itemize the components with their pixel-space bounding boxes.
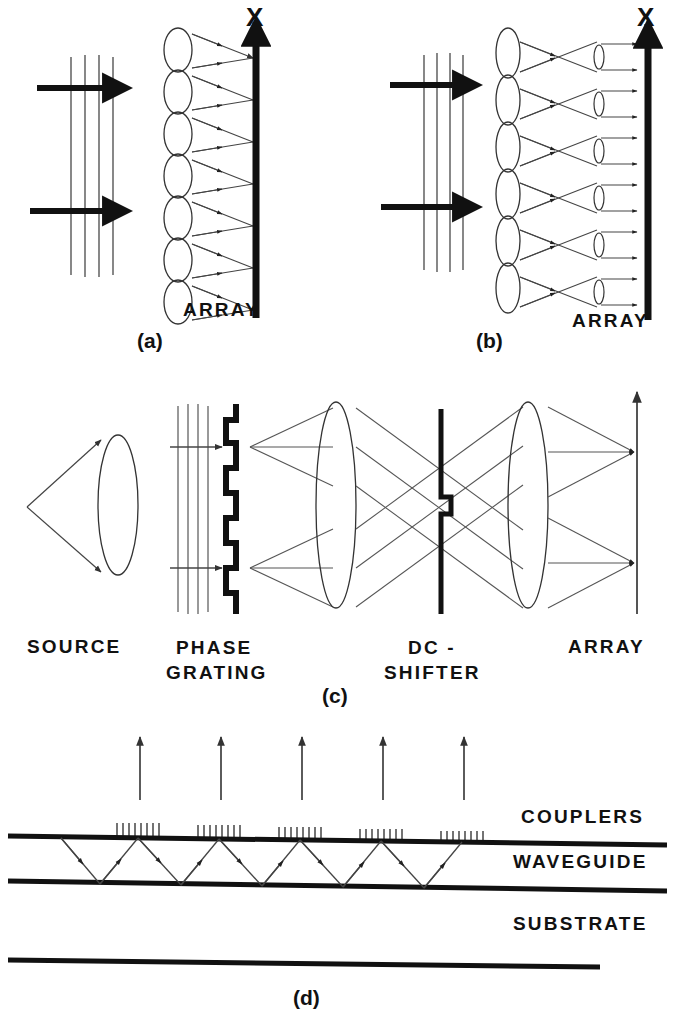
panel-c-phase-grating-label-line1: PHASE — [176, 636, 252, 660]
panel-d-couplers-label: COUPLERS — [521, 806, 644, 828]
panel-a-axis-label: X — [246, 2, 263, 33]
panel-a — [30, 22, 256, 324]
panel-a-lenslet-array — [164, 28, 192, 324]
panel-c-dc-shifter-label-line2: SHIFTER — [384, 661, 481, 685]
figure-canvas: X ARRAY (a) X ARRAY (b) SOURCE PHASE GRA… — [0, 0, 675, 1032]
panel-c-lens-one — [316, 402, 356, 608]
panel-c-dc-shifter — [441, 409, 451, 614]
panel-b-lenslet-array — [496, 28, 520, 313]
panel-c-source-cone — [27, 440, 101, 572]
panel-c-lens-two — [508, 402, 548, 608]
optical-array-figure — [0, 0, 675, 1032]
panel-c-grating-wavefronts — [178, 404, 208, 614]
panel-c — [27, 392, 637, 614]
panel-b-secondary-lenses — [594, 45, 604, 304]
panel-a-array-label: ARRAY — [183, 299, 260, 321]
panel-c-source-lens — [98, 435, 138, 575]
panel-a-ray-fans — [192, 34, 253, 320]
panel-b-axis-label: X — [637, 2, 654, 33]
panel-d-output-beams — [140, 737, 464, 800]
panel-c-caption: (c) — [322, 684, 348, 708]
panel-d-waveguide-bottom-wall — [8, 881, 667, 891]
panel-a-caption: (a) — [137, 329, 163, 353]
panel-d-substrate-label: SUBSTRATE — [513, 913, 648, 935]
panel-d-substrate-line — [8, 960, 600, 967]
panel-d-waveguide-top-wall — [8, 836, 667, 845]
panel-c-phase-grating-label-line2: GRATING — [166, 661, 268, 685]
panel-d-caption: (d) — [293, 986, 320, 1010]
panel-b-caption: (b) — [476, 329, 503, 353]
panel-b-array-label: ARRAY — [572, 310, 649, 332]
panel-c-output-fans — [548, 407, 634, 608]
panel-c-dc-shifter-label-line1: DC - — [408, 636, 456, 660]
panel-b — [381, 24, 648, 320]
panel-d-waveguide-label: WAVEGUIDE — [513, 851, 648, 873]
panel-b-crossed-rays — [520, 42, 637, 307]
panel-c-phase-grating — [226, 404, 236, 614]
panel-c-source-label: SOURCE — [27, 636, 122, 658]
panel-c-array-label: ARRAY — [568, 636, 645, 658]
